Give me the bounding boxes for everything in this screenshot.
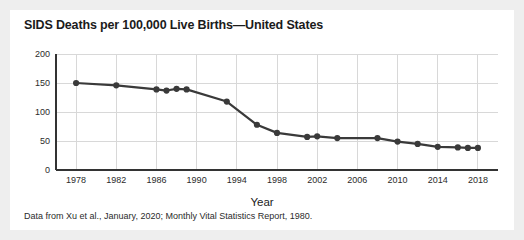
x-tick-label: 1990 [187,175,207,185]
x-tick-label: 1994 [227,175,247,185]
data-point [314,133,320,139]
data-point [435,144,441,150]
gridlines [56,54,498,170]
figure-card: SIDS Deaths per 100,000 Live Births—Unit… [10,10,514,230]
data-point [394,138,400,144]
x-tick-label: 1986 [146,175,166,185]
x-tick-label: 2010 [388,175,408,185]
y-tick-label: 0 [45,165,50,175]
x-tick-label: 2018 [468,175,488,185]
figure-caption: Data from Xu et al., January, 2020; Mont… [24,211,312,221]
data-point [153,86,159,92]
y-axis-tick-labels: 050100150200 [35,49,50,175]
data-point [224,98,230,104]
data-point [274,130,280,136]
data-point [465,145,471,151]
x-tick-label: 2002 [307,175,327,185]
y-tick-label: 200 [35,49,50,59]
x-tick-label: 2006 [347,175,367,185]
data-point [163,87,169,93]
data-point [415,141,421,147]
x-tick-label: 1998 [267,175,287,185]
data-point [183,86,189,92]
x-tick-label: 1982 [106,175,126,185]
plot-area: 050100150200 197819821986199019941998200… [24,40,500,210]
x-axis-tick-labels: 1978198219861990199419982002200620102014… [66,175,488,185]
y-tick-label: 100 [35,107,50,117]
x-tick-label: 1978 [66,175,86,185]
y-tick-label: 150 [35,78,50,88]
data-point [334,135,340,141]
x-tick-label: 2014 [428,175,448,185]
data-point [73,80,79,86]
data-point [113,82,119,88]
data-point [254,122,260,128]
data-point [374,135,380,141]
chart-title: SIDS Deaths per 100,000 Live Births—Unit… [24,18,323,32]
data-point [455,144,461,150]
data-point [173,86,179,92]
line-chart-svg: 050100150200 197819821986199019941998200… [24,40,500,210]
data-point [304,134,310,140]
data-point [475,145,481,151]
x-axis-title: Year [250,196,273,208]
y-tick-label: 50 [40,136,50,146]
